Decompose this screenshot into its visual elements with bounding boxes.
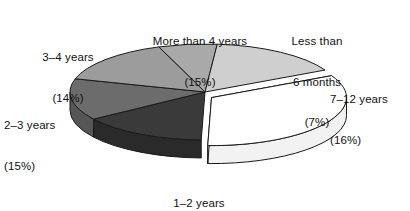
slice-label-more-than-4-years-line1: More than 4 years bbox=[134, 35, 266, 49]
slice-label-7-12-years-percent: (16%) bbox=[330, 134, 410, 148]
slice-label-less-than-6-months-line1: Less than bbox=[272, 35, 362, 49]
slice-label-1-2-years-line1: 1–2 years bbox=[139, 197, 259, 211]
slice-label-3-4-years-line1: 3–4 years bbox=[26, 51, 110, 65]
slice-label-2-3-years-percent: (15%) bbox=[4, 160, 82, 174]
pie-chart-figure: More than 4 years (15%) Less than 6 mont… bbox=[0, 0, 410, 211]
slice-label-7-12-years: 7–12 years (16%) bbox=[330, 66, 410, 174]
slice-label-1-2-years: 1–2 years (33%) bbox=[139, 170, 259, 211]
slice-label-3-4-years-percent: (14%) bbox=[26, 92, 110, 106]
slice-label-more-than-4-years-percent: (15%) bbox=[134, 76, 266, 90]
slice-label-7-12-years-line1: 7–12 years bbox=[330, 93, 410, 107]
slice-label-3-4-years: 3–4 years (14%) bbox=[26, 24, 110, 132]
slice-label-more-than-4-years: More than 4 years (15%) bbox=[134, 8, 266, 116]
